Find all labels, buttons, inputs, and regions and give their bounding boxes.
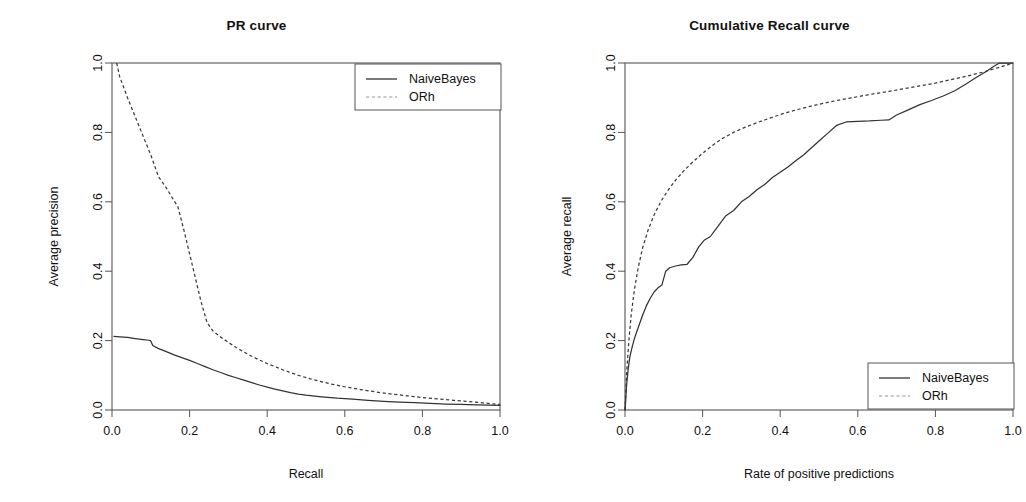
x-tick: 1.0 [1004, 410, 1021, 438]
y-tick-label: 1.0 [91, 54, 105, 71]
y-tick: 0.8 [91, 124, 112, 141]
y-tick-label: 0.2 [604, 332, 618, 349]
x-tick-label: 0.8 [927, 424, 944, 438]
series-orh [625, 63, 1013, 410]
y-tick-label: 0.6 [604, 193, 618, 210]
y-tick: 0.4 [91, 262, 112, 279]
x-tick: 0.8 [414, 410, 431, 438]
panel-cumulative-recall-curve: Cumulative Recall curve 0.00.20.40.60.81… [513, 0, 1026, 502]
x-tick-label: 0.0 [616, 424, 633, 438]
y-tick-label: 0.4 [604, 262, 618, 279]
x-tick-label: 1.0 [1004, 424, 1021, 438]
x-tick-label: 0.4 [772, 424, 789, 438]
x-axis-title: Rate of positive predictions [744, 467, 894, 481]
x-axis-title: Recall [289, 467, 324, 481]
x-tick: 0.4 [259, 410, 276, 438]
legend-label-naivebayes: NaiveBayes [409, 72, 476, 86]
series-naivebayes [114, 336, 500, 405]
cumulative-recall-plot: 0.00.20.40.60.81.00.00.20.40.60.81.0Rate… [513, 0, 1026, 502]
x-tick: 0.6 [336, 410, 353, 438]
series-naivebayes [625, 63, 1013, 410]
x-tick-label: 0.2 [694, 424, 711, 438]
y-tick-label: 0.6 [91, 193, 105, 210]
y-tick: 1.0 [604, 54, 625, 71]
x-tick: 0.4 [772, 410, 789, 438]
x-tick: 0.0 [103, 410, 120, 438]
y-tick: 0.4 [604, 262, 625, 279]
y-tick-label: 0.8 [91, 124, 105, 141]
x-tick-label: 0.4 [259, 424, 276, 438]
x-tick: 0.2 [181, 410, 198, 438]
y-tick: 1.0 [91, 54, 112, 71]
y-tick-label: 0.0 [91, 401, 105, 418]
legend-label-orh: ORh [409, 90, 435, 104]
y-tick: 0.6 [604, 193, 625, 210]
x-tick-label: 0.0 [103, 424, 120, 438]
y-tick: 0.6 [91, 193, 112, 210]
y-tick: 0.8 [604, 124, 625, 141]
x-tick-label: 0.8 [414, 424, 431, 438]
y-tick: 0.0 [91, 401, 112, 418]
legend-label-orh: ORh [922, 389, 948, 403]
chart-legend[interactable]: NaiveBayesORh [355, 64, 501, 110]
pr-curve-plot: 0.00.20.40.60.81.00.00.20.40.60.81.0Reca… [0, 0, 513, 502]
figure-canvas: PR curve 0.00.20.40.60.81.00.00.20.40.60… [0, 0, 1026, 502]
y-tick-label: 0.8 [604, 124, 618, 141]
y-axis-title: Average precision [47, 187, 61, 287]
y-tick: 0.2 [604, 332, 625, 349]
x-tick-label: 0.6 [336, 424, 353, 438]
y-tick-label: 0.2 [91, 332, 105, 349]
x-tick-label: 1.0 [491, 424, 508, 438]
y-tick-label: 1.0 [604, 54, 618, 71]
y-tick: 0.0 [604, 401, 625, 418]
x-tick: 0.8 [927, 410, 944, 438]
panel-pr-curve: PR curve 0.00.20.40.60.81.00.00.20.40.60… [0, 0, 513, 502]
y-tick-label: 0.4 [91, 262, 105, 279]
series-orh [117, 63, 500, 404]
x-tick-label: 0.6 [849, 424, 866, 438]
legend-label-naivebayes: NaiveBayes [922, 371, 989, 385]
x-tick: 1.0 [491, 410, 508, 438]
x-tick: 0.2 [694, 410, 711, 438]
y-tick-label: 0.0 [604, 401, 618, 418]
x-tick: 0.0 [616, 410, 633, 438]
x-tick: 0.6 [849, 410, 866, 438]
chart-legend[interactable]: NaiveBayesORh [868, 363, 1014, 409]
y-tick: 0.2 [91, 332, 112, 349]
y-axis-title: Average recall [560, 197, 574, 277]
x-tick-label: 0.2 [181, 424, 198, 438]
